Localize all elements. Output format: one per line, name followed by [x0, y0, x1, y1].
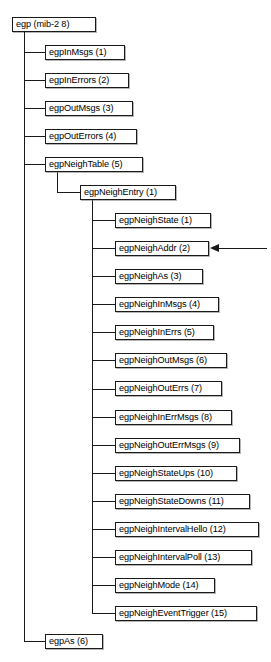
connector-level-1 — [24, 164, 45, 165]
tree-node-egpNeighInErrMsgs[interactable]: egpNeighInErrMsgs (8) — [115, 410, 232, 425]
connector-level-3 — [92, 360, 115, 361]
tree-node-root[interactable]: egp (mib-2 8) — [12, 17, 96, 32]
tree-node-egpNeighStateDowns[interactable]: egpNeighStateDowns (11) — [115, 494, 250, 509]
connector-level-3 — [92, 389, 115, 390]
tree-node-egpNeighInErrs[interactable]: egpNeighInErrs (5) — [115, 325, 214, 340]
tree-node-egpNeighOutErrMsgs[interactable]: egpNeighOutErrMsgs (9) — [115, 438, 240, 453]
connector-level-3 — [92, 220, 115, 221]
pointer-arrow-head-icon — [210, 244, 219, 252]
tree-node-egpNeighAs[interactable]: egpNeighAs (3) — [115, 269, 203, 284]
trunk-level-2 — [57, 171, 58, 192]
tree-node-egpNeighEntry[interactable]: egpNeighEntry (1) — [80, 185, 176, 200]
tree-node-egpNeighOutMsgs[interactable]: egpNeighOutMsgs (6) — [115, 353, 227, 368]
connector-level-3 — [92, 304, 115, 305]
connector-level-1 — [24, 108, 45, 109]
connector-level-3 — [92, 529, 115, 530]
tree-node-egpOutMsgs[interactable]: egpOutMsgs (3) — [45, 101, 133, 116]
mib-tree-diagram: egp (mib-2 8)egpInMsgs (1)egpInErrors (2… — [0, 0, 271, 662]
connector-level-3 — [92, 417, 115, 418]
connector-level-1 — [24, 52, 45, 53]
trunk-level-3 — [92, 199, 93, 613]
tree-node-egpNeighIntervalPoll[interactable]: egpNeighIntervalPoll (13) — [115, 550, 252, 565]
connector-level-3 — [92, 613, 115, 614]
trunk-level-1 — [24, 31, 25, 641]
connector-level-2 — [57, 192, 80, 193]
tree-node-egpNeighOutErrs[interactable]: egpNeighOutErrs (7) — [115, 381, 222, 396]
tree-node-egpInMsgs[interactable]: egpInMsgs (1) — [45, 45, 125, 60]
connector-level-3 — [92, 557, 115, 558]
pointer-arrow-line — [219, 248, 267, 249]
connector-level-1 — [24, 80, 45, 81]
connector-level-3 — [92, 501, 115, 502]
connector-level-3 — [92, 248, 115, 249]
tree-node-egpNeighEventTrigger[interactable]: egpNeighEventTrigger (15) — [115, 606, 257, 621]
tree-node-egpNeighInMsgs[interactable]: egpNeighInMsgs (4) — [115, 297, 219, 312]
connector-level-3 — [92, 473, 115, 474]
connector-level-3 — [92, 332, 115, 333]
tree-node-egpNeighStateUps[interactable]: egpNeighStateUps (10) — [115, 466, 237, 481]
tree-node-egpAs[interactable]: egpAs (6) — [45, 634, 103, 649]
tree-node-egpOutErrors[interactable]: egpOutErrors (4) — [45, 129, 137, 144]
tree-node-egpNeighTable[interactable]: egpNeighTable (5) — [45, 157, 143, 172]
tree-node-egpInErrors[interactable]: egpInErrors (2) — [45, 73, 129, 88]
connector-level-3 — [92, 585, 115, 586]
tree-node-egpNeighIntervalHello[interactable]: egpNeighIntervalHello (12) — [115, 522, 259, 537]
tree-node-egpNeighMode[interactable]: egpNeighMode (14) — [115, 578, 215, 593]
connector-level-1 — [24, 641, 45, 642]
connector-level-3 — [92, 276, 115, 277]
connector-level-1 — [24, 136, 45, 137]
tree-node-egpNeighAddr[interactable]: egpNeighAddr (2) — [115, 241, 209, 256]
tree-node-egpNeighState[interactable]: egpNeighState (1) — [115, 213, 211, 228]
connector-level-3 — [92, 445, 115, 446]
